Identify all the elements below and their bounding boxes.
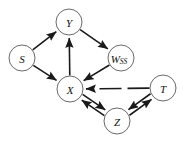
node-label-s: S — [19, 53, 25, 65]
diagram-canvas: YSWSSXZT — [0, 0, 189, 146]
edge-s-to-y — [33, 32, 57, 50]
node-x[interactable]: X — [57, 76, 83, 102]
edge-x-to-y — [69, 38, 70, 76]
edge-y-to-wss — [80, 30, 108, 49]
node-label-x: X — [66, 84, 75, 96]
node-s[interactable]: S — [9, 45, 35, 71]
node-label-t: T — [160, 83, 167, 95]
node-y[interactable]: Y — [56, 9, 82, 35]
node-t[interactable]: T — [150, 75, 176, 101]
edge-s-to-x — [33, 65, 56, 80]
edge-t-to-x — [86, 88, 150, 89]
edge-wss-to-x — [84, 65, 110, 81]
edges-layer — [33, 30, 152, 116]
causal-diagram: YSWSSXZT — [0, 0, 189, 146]
node-label-z: Z — [114, 116, 121, 128]
node-wss[interactable]: WSS — [108, 45, 134, 71]
nodes-layer: YSWSSXZT — [9, 9, 176, 134]
node-z[interactable]: Z — [104, 108, 130, 134]
